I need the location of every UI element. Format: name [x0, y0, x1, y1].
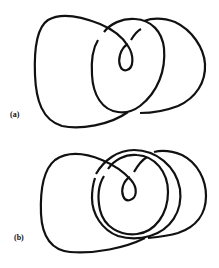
knot-b-drawing: [0, 134, 219, 268]
knot-a-left-lobe: [35, 16, 133, 127]
knot-diagram-b: (b): [0, 134, 219, 268]
knot-a-right-lobe: [140, 19, 205, 113]
knot-a-middle-circle: [92, 19, 165, 112]
figure-label-a: (a): [10, 110, 19, 119]
knot-a-inner-strand: [131, 29, 141, 40]
knot-b-inner-strand: [134, 157, 147, 172]
knot-b-inner-circle: [99, 155, 168, 234]
knot-a-drawing: [0, 0, 219, 134]
figure-label-b: (b): [14, 233, 24, 242]
knot-diagram-a: (a): [0, 0, 219, 134]
